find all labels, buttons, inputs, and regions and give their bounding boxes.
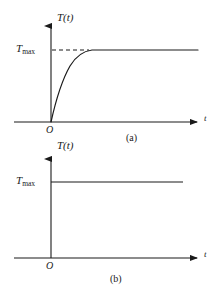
panel-b-caption: (b) bbox=[110, 274, 122, 284]
panel-b-x-axis-label: t bbox=[204, 250, 207, 259]
panel-a-plot bbox=[14, 26, 198, 122]
panel-b-tmax-label: Tmax bbox=[16, 175, 35, 186]
panel-a-curve bbox=[51, 50, 198, 122]
panel-a-tmax-label: Tmax bbox=[16, 43, 35, 54]
panel-b-origin-label: O bbox=[46, 261, 53, 271]
panel-a-origin-label: O bbox=[46, 125, 53, 135]
panel-a-x-axis-label: t bbox=[204, 114, 207, 123]
panel-b-plot bbox=[14, 159, 197, 258]
panel-b-y-axis-label: T(t) bbox=[57, 140, 74, 151]
panel-a-tmax-subscript: max bbox=[22, 47, 35, 56]
panel-a-y-axis-label: T(t) bbox=[57, 12, 74, 23]
panel-b-tmax-subscript: max bbox=[22, 179, 35, 188]
figure-container: T(t) Tmax O t (a) T(t) Tmax O t (b) bbox=[0, 0, 220, 294]
panel-a-caption: (a) bbox=[126, 133, 137, 143]
